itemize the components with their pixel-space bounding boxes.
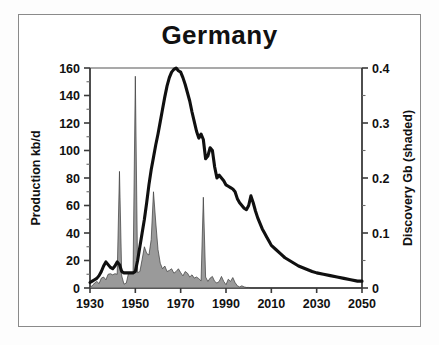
right-axis-tick-label: 0.2 [372,172,389,186]
left-axis-tick-label: 120 [59,117,80,131]
x-axis-tick-label: 2030 [303,297,331,311]
chart-plot-area: 02040608010012014016000.10.20.30.4193019… [0,0,439,345]
right-axis-tick-label: 0.1 [372,227,389,241]
right-axis-tick-label: 0 [372,282,379,296]
x-axis-tick-label: 1950 [121,297,149,311]
right-axis-tick-label: 0.4 [372,62,389,76]
production-line [90,68,362,283]
x-axis-tick-label: 1930 [76,297,104,311]
chart-figure: Germany 02040608010012014016000.10.20.30… [0,0,439,345]
right-axis-tick-label: 0.3 [372,117,389,131]
left-axis-tick-label: 0 [73,282,80,296]
left-axis-tick-label: 100 [59,144,80,158]
x-axis-tick-label: 1970 [167,297,195,311]
left-axis-tick-label: 80 [66,172,80,186]
right-axis-title: Discovery Gb (shaded) [401,110,415,246]
x-axis-tick-label: 2050 [348,297,376,311]
x-axis-tick-label: 2010 [257,297,285,311]
left-axis-tick-label: 60 [66,199,80,213]
left-axis-tick-label: 140 [59,89,80,103]
left-axis-title: Production kb/d [29,130,43,225]
left-axis-tick-label: 20 [66,254,80,268]
left-axis-tick-label: 160 [59,62,80,76]
left-axis-tick-label: 40 [66,227,80,241]
x-axis-tick-label: 1990 [212,297,240,311]
